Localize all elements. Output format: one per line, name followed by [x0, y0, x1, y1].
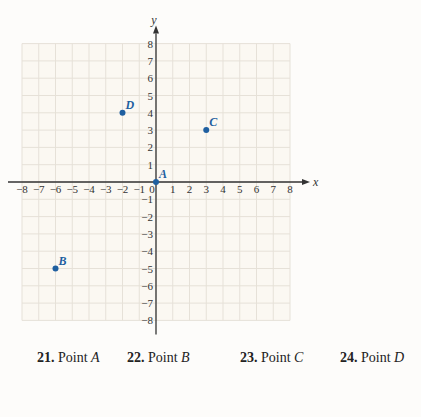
svg-text:−1: −1 — [141, 193, 153, 205]
coordinate-plane: xy −8−7−6−5−4−3−2−1012345678−8−7−6−5−4−3… — [0, 0, 421, 345]
svg-text:4: 4 — [220, 183, 226, 195]
svg-text:−4: −4 — [83, 183, 95, 195]
exercise-23: 23. Point C — [240, 350, 303, 366]
svg-text:−8: −8 — [16, 183, 28, 195]
svg-text:−4: −4 — [141, 245, 153, 257]
svg-text:1: 1 — [148, 159, 154, 171]
exercise-number: 22. — [127, 350, 145, 365]
point-label-c: C — [209, 115, 218, 129]
svg-text:−7: −7 — [33, 183, 45, 195]
exercise-text: Point — [148, 350, 181, 365]
svg-text:8: 8 — [287, 183, 293, 195]
svg-text:−2: −2 — [117, 183, 129, 195]
svg-text:1: 1 — [170, 183, 176, 195]
svg-text:−8: −8 — [141, 314, 153, 326]
point-label-a: A — [158, 167, 167, 181]
exercise-21: 21. Point A — [37, 350, 100, 366]
svg-text:3: 3 — [204, 183, 210, 195]
exercise-24: 24. Point D — [340, 350, 404, 366]
svg-text:−3: −3 — [141, 228, 153, 240]
svg-text:2: 2 — [187, 183, 193, 195]
svg-text:7: 7 — [271, 183, 277, 195]
exercise-point: D — [394, 350, 404, 365]
point-label-d: D — [125, 98, 135, 112]
exercise-number: 21. — [37, 350, 55, 365]
svg-text:5: 5 — [237, 183, 243, 195]
svg-text:6: 6 — [254, 183, 260, 195]
svg-text:−5: −5 — [66, 183, 78, 195]
svg-text:−3: −3 — [100, 183, 112, 195]
svg-text:−6: −6 — [141, 280, 153, 292]
exercise-list: 21. Point A 22. Point B 23. Point C 24. … — [0, 350, 421, 374]
svg-text:−7: −7 — [141, 297, 153, 309]
svg-text:x: x — [312, 175, 319, 189]
svg-text:−6: −6 — [50, 183, 62, 195]
exercise-point: B — [181, 350, 190, 365]
exercise-number: 23. — [240, 350, 258, 365]
exercise-text: Point — [361, 350, 394, 365]
exercise-point: C — [294, 350, 303, 365]
svg-text:−5: −5 — [141, 263, 153, 275]
exercise-text: Point — [58, 350, 91, 365]
exercise-number: 24. — [340, 350, 358, 365]
svg-text:2: 2 — [148, 141, 154, 153]
svg-text:5: 5 — [148, 90, 154, 102]
svg-text:y: y — [150, 13, 157, 27]
svg-text:7: 7 — [148, 55, 154, 67]
exercise-point: A — [91, 350, 100, 365]
exercise-text: Point — [261, 350, 294, 365]
exercise-22: 22. Point B — [127, 350, 190, 366]
svg-text:4: 4 — [148, 107, 154, 119]
point-label-b: B — [58, 254, 67, 268]
svg-text:3: 3 — [148, 124, 154, 136]
svg-text:−2: −2 — [141, 211, 153, 223]
svg-text:6: 6 — [148, 72, 154, 84]
svg-text:8: 8 — [148, 38, 154, 50]
